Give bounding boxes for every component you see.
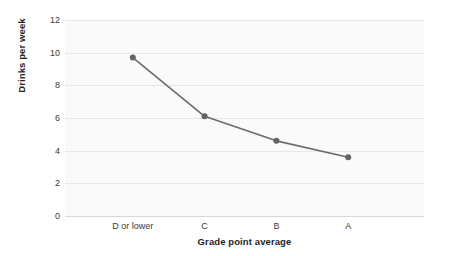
series-line-drinks-per-week [65, 20, 424, 216]
gridline [65, 216, 424, 217]
x-tick-label: C [201, 220, 208, 232]
x-tick-label: D or lower [112, 220, 153, 232]
data-point-marker [130, 55, 136, 61]
x-tick-label: B [273, 220, 279, 232]
y-tick-label: 10 [2, 48, 60, 58]
x-axis-title: Grade point average [65, 236, 424, 247]
y-tick-label: 12 [2, 15, 60, 25]
data-point-marker [273, 138, 279, 144]
data-point-marker [345, 154, 351, 160]
line-chart: Drinks per week 024681012 D or lowerCBA … [0, 0, 451, 256]
y-axis: 024681012 [0, 0, 60, 256]
series-line [133, 58, 348, 158]
data-point-marker [202, 113, 208, 119]
y-tick-label: 6 [2, 113, 60, 123]
y-tick-label: 4 [2, 146, 60, 156]
plot-area [65, 20, 424, 216]
x-axis: D or lowerCBA [0, 220, 451, 234]
y-tick-label: 2 [2, 178, 60, 188]
y-tick-label: 8 [2, 80, 60, 90]
x-tick-label: A [345, 220, 351, 232]
